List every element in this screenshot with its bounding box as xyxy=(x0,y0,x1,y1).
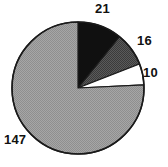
pie-label-slice-3: 10 xyxy=(143,66,158,80)
pie-chart: 21 16 10 147 xyxy=(0,0,168,167)
pie-label-slice-1: 21 xyxy=(95,2,110,16)
pie-label-slice-2: 16 xyxy=(137,34,152,48)
pie-label-slice-4: 147 xyxy=(4,133,26,147)
